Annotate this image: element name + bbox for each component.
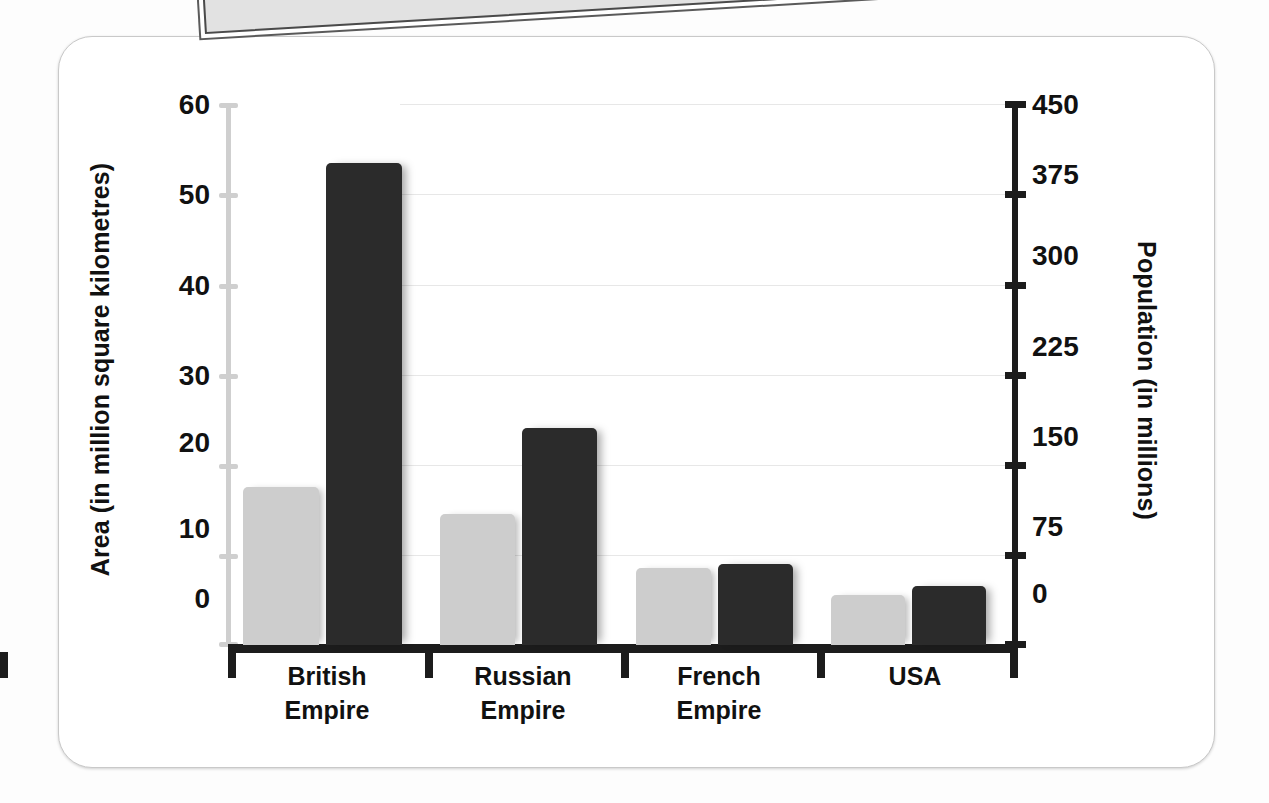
- x-category-line1: USA: [810, 660, 1020, 694]
- gridline-30: [400, 375, 1012, 376]
- bar-area-russian-empire: [440, 514, 515, 645]
- right-tick-label-450: 450: [1032, 89, 1102, 121]
- right-tick-label-75: 75: [1032, 511, 1102, 543]
- right-tick-450: [1005, 101, 1026, 108]
- right-tick-75: [1005, 552, 1026, 559]
- gridline-50: [400, 194, 1012, 195]
- right-tick-label-150: 150: [1032, 421, 1102, 453]
- bar-population-british-empire: [326, 163, 402, 645]
- right-tick-300: [1005, 282, 1026, 289]
- left-tick-60: [219, 103, 238, 108]
- bar-area-usa: [831, 595, 905, 645]
- gridline-60: [400, 104, 1012, 105]
- left-tick-label-0: 0: [148, 583, 210, 615]
- bar-population-french-empire: [718, 564, 793, 645]
- right-tick-225: [1005, 372, 1026, 379]
- left-tick-30: [219, 374, 238, 379]
- left-axis-title: Area (in million square kilometres): [86, 140, 115, 600]
- right-tick-label-375: 375: [1032, 159, 1102, 191]
- right-tick-label-0: 0: [1032, 578, 1102, 610]
- left-tick-label-40: 40: [148, 270, 210, 302]
- right-tick-375: [1005, 191, 1026, 198]
- left-tick-20: [219, 464, 238, 469]
- x-category-label-french-empire: French Empire: [614, 660, 824, 728]
- x-category-line2: Empire: [418, 694, 628, 728]
- left-tick-label-60: 60: [148, 89, 210, 121]
- x-category-line1: British: [222, 660, 432, 694]
- right-tick-label-225: 225: [1032, 331, 1102, 363]
- x-tick-1: [0, 652, 8, 678]
- bar-area-british-empire: [243, 487, 319, 645]
- right-tick-label-300: 300: [1032, 240, 1102, 272]
- x-category-label-usa: USA: [810, 660, 1020, 694]
- gridline-40: [400, 285, 1012, 286]
- bar-population-usa: [912, 586, 986, 645]
- x-category-label-russian-empire: Russian Empire: [418, 660, 628, 728]
- x-category-line2: Empire: [222, 694, 432, 728]
- left-tick-40: [219, 284, 238, 289]
- left-tick-10: [219, 554, 238, 559]
- left-tick-label-10: 10: [148, 513, 210, 545]
- bar-population-russian-empire: [522, 428, 597, 645]
- x-category-line1: Russian: [418, 660, 628, 694]
- x-category-label-british-empire: British Empire: [222, 660, 432, 728]
- left-tick-label-50: 50: [148, 179, 210, 211]
- x-category-line1: French: [614, 660, 824, 694]
- bar-chart-figure: Area (in million square kilometres) Popu…: [0, 0, 1269, 803]
- left-tick-label-30: 30: [148, 360, 210, 392]
- left-tick-50: [219, 193, 238, 198]
- gridline-20: [400, 465, 1012, 466]
- left-tick-label-20: 20: [148, 427, 210, 459]
- bar-area-french-empire: [636, 568, 711, 645]
- right-axis-title: Population (in millions): [1132, 171, 1161, 591]
- x-category-line2: Empire: [614, 694, 824, 728]
- right-tick-150: [1005, 462, 1026, 469]
